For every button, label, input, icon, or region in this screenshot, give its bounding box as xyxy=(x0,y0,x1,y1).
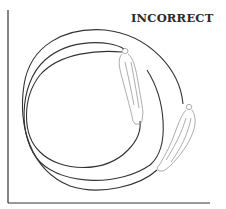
figure-1-body xyxy=(119,54,143,124)
figure-1-head xyxy=(122,48,128,53)
incorrect-label: INCORRECT xyxy=(131,11,213,25)
figure-2-head xyxy=(186,104,192,109)
diagram-svg xyxy=(0,0,226,209)
human-figure-1 xyxy=(119,48,143,124)
middle-loop-path xyxy=(24,43,163,181)
inner-loop-path xyxy=(27,51,141,167)
diagram-canvas: INCORRECT xyxy=(0,0,226,209)
